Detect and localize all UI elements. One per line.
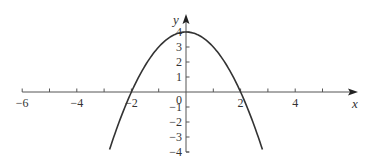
- x-tick-label: −6: [16, 96, 29, 110]
- origin-label: 0: [176, 93, 182, 107]
- x-tick-label: −4: [70, 96, 83, 110]
- x-tick-label: 4: [292, 96, 298, 110]
- y-axis-label: y: [171, 12, 179, 27]
- axes: [22, 14, 358, 152]
- x-axis-label: x: [351, 96, 358, 111]
- y-tick-label: 3: [176, 40, 182, 54]
- plot-area: −6−4−2244321−1−2−3−4 x y 0: [0, 0, 372, 167]
- y-tick-label: −4: [169, 145, 182, 159]
- y-tick-label: 2: [176, 55, 182, 69]
- y-tick-label: 1: [176, 70, 182, 84]
- y-tick-label: −2: [169, 115, 182, 129]
- parabola-chart: −6−4−2244321−1−2−3−4 x y 0: [0, 0, 372, 167]
- y-tick-label: −3: [169, 130, 182, 144]
